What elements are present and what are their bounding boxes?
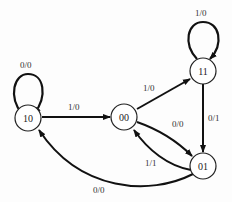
edge-01-00: 1/1 xyxy=(134,130,191,170)
edge-11-11: 1/0 xyxy=(188,8,218,59)
edge-label: 1/1 xyxy=(145,158,157,168)
edge-label: 1/0 xyxy=(143,83,155,93)
state-node-00: 00 xyxy=(111,104,137,130)
edge-label: 0/1 xyxy=(208,113,220,123)
edge-label: 1/0 xyxy=(195,8,207,18)
state-diagram: 0/0 1/0 1/0 1/0 0/1 0/0 1/1 0/0 10 xyxy=(0,0,232,202)
edge-10-00: 1/0 xyxy=(42,102,110,117)
state-node-01: 01 xyxy=(190,153,216,179)
edge-label: 0/0 xyxy=(20,60,32,70)
edge-00-11: 1/0 xyxy=(137,79,190,109)
edge-label: 1/0 xyxy=(68,102,80,112)
svg-text:00: 00 xyxy=(119,112,129,123)
edge-label: 0/0 xyxy=(172,119,184,129)
edge-11-01: 0/1 xyxy=(203,84,220,152)
svg-text:01: 01 xyxy=(198,161,208,172)
svg-text:11: 11 xyxy=(198,66,208,77)
state-node-11: 11 xyxy=(190,58,216,84)
svg-text:10: 10 xyxy=(23,113,33,124)
state-node-10: 10 xyxy=(15,105,41,131)
edge-00-01: 0/0 xyxy=(137,119,192,156)
edge-label: 0/0 xyxy=(93,185,105,195)
